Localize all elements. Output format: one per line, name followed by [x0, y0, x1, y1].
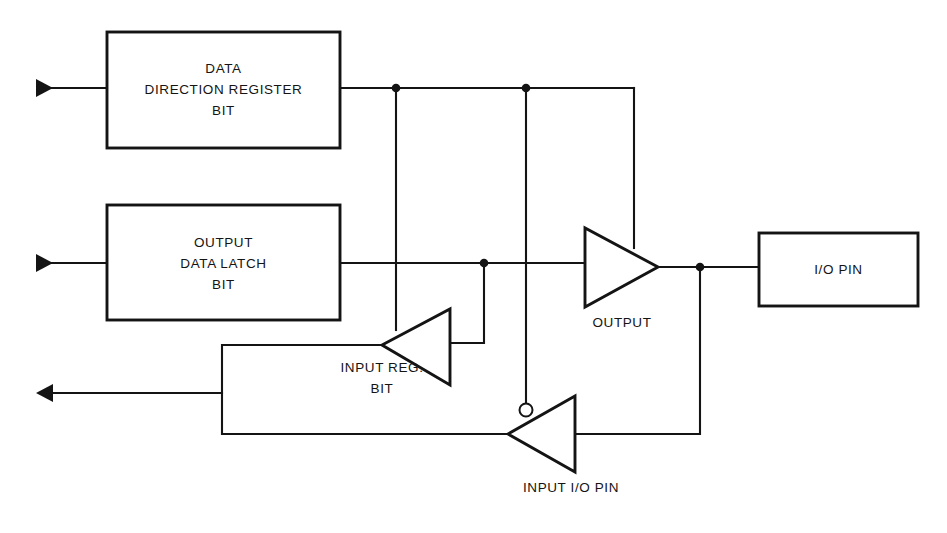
wire-input-reg-return-path — [222, 345, 508, 434]
output-buffer-triangle — [585, 228, 658, 307]
latch-input-arrow-icon — [36, 254, 53, 272]
ddr-label-line-2: DIRECTION REGISTER — [145, 82, 303, 97]
wire-latch-to-input-reg — [450, 263, 484, 343]
block-output-data-latch-bit[interactable]: OUTPUT DATA LATCH BIT — [107, 205, 340, 320]
arrow-layer — [36, 79, 53, 402]
ddr-label-line-1: DATA — [205, 61, 241, 76]
latch-label-line-1: OUTPUT — [194, 235, 253, 250]
block-data-direction-register-bit[interactable]: DATA DIRECTION REGISTER BIT — [107, 32, 340, 148]
input-register-label-line-1: INPUT REG. — [340, 360, 423, 375]
buffer-layer: OUTPUT INPUT REG. BIT INPUT I/O PIN — [340, 228, 658, 495]
junction-dot-io-pin — [696, 263, 705, 272]
junction-dot-latch-out — [480, 259, 489, 268]
io-pin-label: I/O PIN — [814, 262, 862, 277]
buffer-output[interactable]: OUTPUT — [585, 228, 658, 330]
block-io-pin[interactable]: I/O PIN — [759, 233, 918, 306]
junction-layer — [392, 84, 705, 272]
latch-label-line-2: DATA LATCH — [180, 256, 266, 271]
buffer-input-io-pin[interactable]: INPUT I/O PIN — [508, 396, 619, 495]
input-register-label-line-2: BIT — [371, 381, 394, 396]
input-register-output-arrow-icon — [36, 384, 53, 402]
latch-label-line-3: BIT — [212, 277, 235, 292]
output-buffer-label: OUTPUT — [592, 315, 651, 330]
io-port-block-diagram: DATA DIRECTION REGISTER BIT OUTPUT DATA … — [0, 0, 947, 533]
block-layer: DATA DIRECTION REGISTER BIT OUTPUT DATA … — [107, 32, 918, 320]
junction-dot-ddr-a — [392, 84, 401, 93]
ddr-label-line-3: BIT — [212, 103, 235, 118]
input-io-pin-label: INPUT I/O PIN — [523, 480, 619, 495]
ddr-input-arrow-icon — [36, 79, 53, 97]
input-io-pin-buffer-triangle — [508, 396, 575, 472]
diagram-canvas: DATA DIRECTION REGISTER BIT OUTPUT DATA … — [0, 0, 947, 533]
junction-dot-ddr-b — [522, 84, 531, 93]
inverting-bubble-icon — [520, 404, 533, 417]
